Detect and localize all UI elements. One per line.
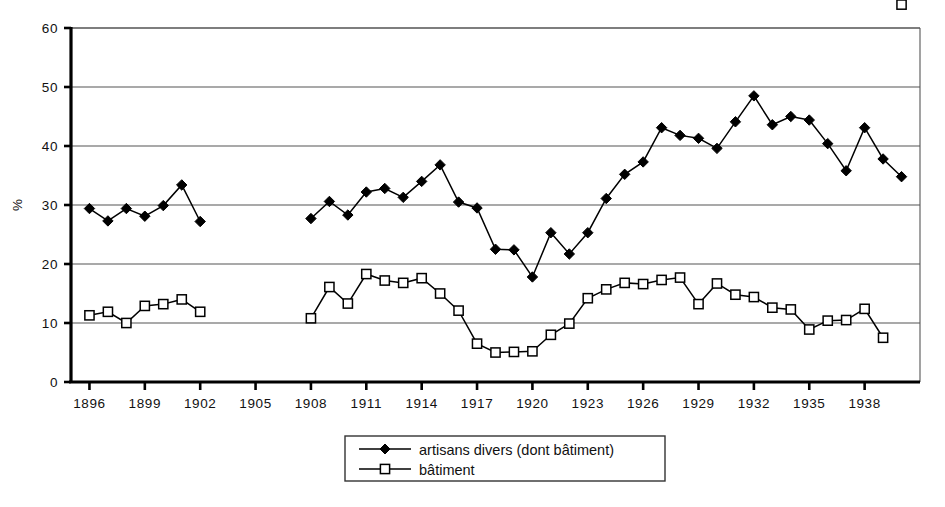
data-point-square [620, 278, 629, 287]
data-point-square [436, 289, 445, 298]
data-point-square [196, 307, 205, 316]
y-tick-label: 50 [42, 80, 58, 95]
x-tick-label: 1899 [129, 396, 161, 411]
x-tick-label: 1917 [461, 396, 493, 411]
x-tick-label: 1935 [793, 396, 825, 411]
x-tick-label: 1896 [73, 396, 105, 411]
chart-background [0, 0, 945, 507]
x-tick-label: 1905 [239, 396, 271, 411]
data-point-square [472, 339, 481, 348]
data-point-square [399, 278, 408, 287]
data-point-square [712, 279, 721, 288]
data-point-square [602, 285, 611, 294]
data-point-square [122, 318, 131, 327]
y-tick-label: 0 [50, 375, 58, 390]
data-point-square [805, 325, 814, 334]
data-point-square [362, 269, 371, 278]
y-tick-label: 20 [42, 257, 58, 272]
y-tick-label: 40 [42, 139, 58, 154]
data-point-square [103, 307, 112, 316]
data-point-square [491, 348, 500, 357]
data-point-square [823, 316, 832, 325]
data-point-square [177, 295, 186, 304]
x-tick-label: 1929 [682, 396, 714, 411]
data-point-square [860, 304, 869, 313]
data-point-square [731, 290, 740, 299]
data-point-square [768, 303, 777, 312]
line-chart: 0102030405060 18961899190219051908191119… [0, 0, 945, 507]
legend-label-1: bâtiment [419, 462, 475, 478]
legend-label-0: artisans divers (dont bâtiment) [419, 442, 614, 458]
data-point-square [85, 311, 94, 320]
y-tick-label: 30 [42, 198, 58, 213]
data-point-square [565, 319, 574, 328]
data-point-square [786, 305, 795, 314]
data-point-square [694, 300, 703, 309]
data-point-square [878, 333, 887, 342]
x-tick-label: 1914 [405, 396, 437, 411]
chart-legend: artisans divers (dont bâtiment)bâtiment [345, 436, 665, 481]
x-tick-label: 1920 [516, 396, 548, 411]
data-point-square [657, 275, 666, 284]
y-axis-title: % [10, 199, 25, 211]
data-point-square [417, 274, 426, 283]
data-point-square [140, 301, 149, 310]
data-point-square [675, 273, 684, 282]
x-tick-label: 1932 [738, 396, 770, 411]
chart-page: 0102030405060 18961899190219051908191119… [0, 0, 945, 507]
data-point-square [583, 294, 592, 303]
x-tick-label: 1938 [848, 396, 880, 411]
data-point-square [509, 347, 518, 356]
x-tick-label: 1923 [572, 396, 604, 411]
data-point-square [325, 282, 334, 291]
data-point-square [639, 279, 648, 288]
data-point-square [546, 330, 555, 339]
data-point-square [749, 292, 758, 301]
x-tick-label: 1902 [184, 396, 216, 411]
data-point-square [454, 306, 463, 315]
y-tick-label: 60 [42, 21, 58, 36]
y-tick-label: 10 [42, 316, 58, 331]
data-point-square [306, 314, 315, 323]
data-point-square [528, 347, 537, 356]
data-point-square [159, 300, 168, 309]
data-point-square [380, 276, 389, 285]
x-tick-label: 1908 [295, 396, 327, 411]
open-square-icon [380, 464, 389, 473]
data-point-square [343, 299, 352, 308]
data-point-square [842, 315, 851, 324]
x-tick-label: 1926 [627, 396, 659, 411]
x-tick-label: 1911 [351, 396, 382, 411]
data-point-square [897, 0, 906, 9]
